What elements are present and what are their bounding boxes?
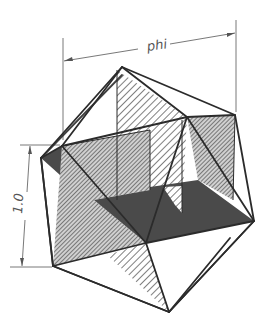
arrowhead-bottom-icon bbox=[20, 258, 24, 266]
vertical-side-rectangle-lower bbox=[107, 243, 169, 312]
left-dark-triangle bbox=[41, 146, 62, 175]
arrowhead-top-icon bbox=[28, 146, 32, 154]
arrowhead-right-icon bbox=[227, 33, 235, 37]
arrowhead-left-icon bbox=[64, 57, 73, 61]
width-label: phi bbox=[145, 36, 168, 54]
dimension-line-left bbox=[64, 49, 138, 61]
icosahedron-diagram: phi 1.0 bbox=[0, 0, 273, 334]
height-label: 1.0 bbox=[10, 193, 26, 215]
dimension-line-right bbox=[170, 33, 235, 44]
